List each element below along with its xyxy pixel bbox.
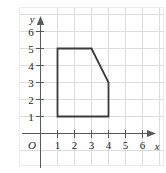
coordinate-plane-figure: 6 5 4 3 2 1 1 2 3 4 5 6 O y x bbox=[0, 0, 166, 173]
x-tick-label-5: 5 bbox=[123, 139, 129, 151]
x-tick-label-2: 2 bbox=[72, 139, 78, 151]
x-tick-label-1: 1 bbox=[55, 139, 61, 151]
x-tick-label-4: 4 bbox=[106, 139, 112, 151]
y-axis-label: y bbox=[29, 14, 35, 25]
x-tick-label-6: 6 bbox=[140, 139, 146, 151]
x-axis-label: x bbox=[154, 141, 160, 152]
x-tick-label-3: 3 bbox=[89, 139, 95, 151]
y-tick-label-4: 4 bbox=[28, 60, 34, 72]
y-tick-label-1: 1 bbox=[28, 111, 34, 123]
y-tick-label-6: 6 bbox=[28, 26, 34, 38]
coordinate-plane-svg: 6 5 4 3 2 1 1 2 3 4 5 6 O y x bbox=[0, 0, 166, 173]
y-tick-label-3: 3 bbox=[28, 77, 34, 89]
y-tick-label-2: 2 bbox=[28, 94, 34, 106]
y-tick-label-5: 5 bbox=[28, 43, 34, 55]
origin-label: O bbox=[28, 139, 36, 151]
